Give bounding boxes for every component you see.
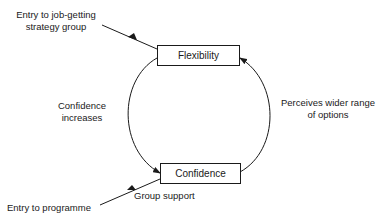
node-confidence: Confidence — [160, 163, 241, 184]
label-perceives-options: Perceives wider range of options — [275, 97, 381, 121]
label-entry-strategy: Entry to job-getting strategy group — [10, 9, 102, 33]
label-entry-programme: Entry to programme — [7, 202, 91, 214]
arc-confidence-increases — [128, 58, 160, 173]
arc-perceives-options — [240, 58, 270, 172]
node-flexibility: Flexibility — [157, 45, 240, 66]
node-confidence-label: Confidence — [175, 168, 226, 179]
arrowhead-entry-strategy — [128, 33, 137, 40]
label-group-support: Group support — [134, 190, 195, 202]
label-confidence-increases: Confidence increases — [52, 100, 112, 124]
node-flexibility-label: Flexibility — [178, 50, 219, 61]
